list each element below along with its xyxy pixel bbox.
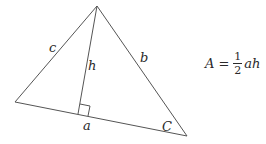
triangle-diagram: c h b a C A = 1 2 ah — [0, 0, 266, 144]
base-a-label: a — [83, 118, 91, 133]
fraction-numerator: 1 — [233, 51, 242, 64]
side-c-label: c — [49, 40, 57, 55]
side-b-line — [97, 6, 187, 136]
formula-fraction: 1 2 — [233, 51, 242, 76]
formula-lhs: A — [205, 56, 214, 71]
side-b-label: b — [140, 50, 148, 65]
height-label: h — [88, 58, 96, 73]
fraction-denominator: 2 — [234, 64, 241, 76]
angle-c-label: C — [162, 119, 172, 134]
formula-equals: = — [218, 56, 229, 71]
area-formula: A = 1 2 ah — [205, 47, 260, 79]
right-angle-marker — [80, 104, 90, 116]
formula-rhs-vars: ah — [244, 56, 260, 71]
